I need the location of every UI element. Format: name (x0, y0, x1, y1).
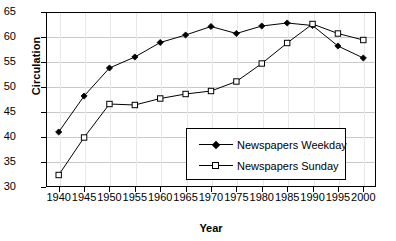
legend-item-label: Newspapers Sunday (237, 160, 339, 172)
gridline (47, 62, 375, 63)
vertical-gridline (60, 13, 61, 186)
x-axis-tick-mark (262, 187, 263, 192)
x-axis-tick-mark (236, 187, 237, 192)
x-axis-tick-mark (59, 187, 60, 192)
x-axis-tick-mark (287, 187, 288, 192)
y-axis-tick-label: 45 (0, 106, 16, 117)
y-axis-tick-label: 65 (0, 6, 16, 17)
vertical-gridline (364, 13, 365, 186)
circulation-line-chart: Circulation Year 3035404550556065 194019… (0, 0, 396, 241)
legend-item-label: Newspapers Weekday (237, 139, 347, 151)
y-axis-tick-label: 35 (0, 156, 16, 167)
x-axis-tick-mark (186, 187, 187, 192)
x-axis-tick-mark (109, 187, 110, 192)
open-square-marker-icon (197, 160, 237, 172)
y-axis-tick-label: 50 (0, 81, 16, 92)
x-axis-tick-mark (363, 187, 364, 192)
vertical-gridline (161, 13, 162, 186)
legend-item-newspapers-weekday[interactable]: Newspapers Weekday (187, 134, 345, 155)
gridline (47, 112, 375, 113)
x-axis-tick-mark (211, 187, 212, 192)
vertical-gridline (85, 13, 86, 186)
chart-legend: Newspapers Weekday Newspapers Sunday (186, 128, 346, 180)
x-axis-tick-mark (338, 187, 339, 192)
filled-diamond-marker-icon (197, 139, 237, 151)
legend-item-newspapers-sunday[interactable]: Newspapers Sunday (187, 155, 345, 176)
x-axis-tick-mark (160, 187, 161, 192)
x-axis-tick-mark (313, 187, 314, 192)
x-axis-tick-mark (135, 187, 136, 192)
x-axis-tick-label: 2000 (343, 192, 383, 203)
y-axis-title: Circulation (30, 26, 42, 106)
y-axis-tick-label: 40 (0, 131, 16, 142)
vertical-gridline (136, 13, 137, 186)
y-axis-tick-label: 55 (0, 56, 16, 67)
y-axis-tick-label: 30 (0, 181, 16, 192)
gridline (47, 87, 375, 88)
y-axis-tick-label: 60 (0, 31, 16, 42)
y-axis-tick-mark (41, 187, 46, 188)
x-axis-tick-mark (84, 187, 85, 192)
x-axis-title: Year (46, 222, 376, 234)
gridline (47, 37, 375, 38)
vertical-gridline (110, 13, 111, 186)
